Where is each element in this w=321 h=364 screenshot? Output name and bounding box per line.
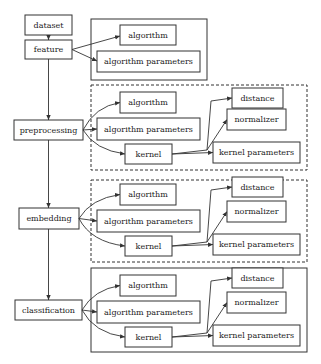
preprocessing-algorithm-parameters: algorithm parameters bbox=[97, 118, 200, 140]
embedding-distance: distance bbox=[232, 177, 283, 197]
embedding-kernel: kernel bbox=[125, 236, 172, 256]
embedding-edge-algorithm-parameters bbox=[79, 219, 97, 222]
edge-feature-algorithm bbox=[72, 36, 120, 50]
feature-algorithm-parameters: algorithm parameters bbox=[97, 51, 200, 72]
classification-edge-algorithm-parameters bbox=[82, 310, 97, 312]
preprocessing-kernel-label: kernel bbox=[136, 150, 162, 159]
embedding-kernel-label: kernel bbox=[136, 242, 162, 251]
preprocessing-kernel-parameters: kernel parameters bbox=[213, 142, 300, 163]
feature-algorithm: algorithm bbox=[120, 25, 176, 45]
classification-normalizer-label: normalizer bbox=[234, 298, 278, 307]
embedding-algorithm-label: algorithm bbox=[128, 190, 168, 199]
classification-algorithm-parameters: algorithm parameters bbox=[97, 301, 200, 323]
classification-kernel-label: kernel bbox=[136, 333, 162, 342]
embedding-distance-label: distance bbox=[240, 183, 274, 192]
node-embedding-label: embedding bbox=[26, 214, 71, 223]
embedding-stage-items: algorithmalgorithm parameterskerneldista… bbox=[79, 177, 300, 256]
node-preprocessing: preprocessing bbox=[14, 120, 83, 140]
embedding-kernel-parameters-label: kernel parameters bbox=[219, 240, 294, 249]
feature-algorithm-label: algorithm bbox=[128, 31, 168, 40]
classification-algorithm-parameters-label: algorithm parameters bbox=[104, 308, 193, 317]
preprocessing-algorithm-parameters-label: algorithm parameters bbox=[104, 125, 193, 134]
node-dataset: dataset bbox=[25, 15, 72, 35]
node-embedding: embedding bbox=[19, 208, 79, 229]
embedding-algorithm: algorithm bbox=[120, 184, 176, 205]
node-classification-label: classification bbox=[22, 306, 75, 315]
classification-kernel-parameters-label: kernel parameters bbox=[219, 331, 294, 340]
node-classification: classification bbox=[15, 300, 82, 320]
classification-algorithm: algorithm bbox=[120, 275, 176, 296]
preprocessing-distance-label: distance bbox=[240, 94, 274, 103]
feature-algorithm-parameters-label: algorithm parameters bbox=[104, 57, 193, 66]
embedding-normalizer: normalizer bbox=[227, 201, 286, 222]
preprocessing-algorithm-label: algorithm bbox=[128, 98, 168, 107]
embedding-algorithm-parameters: algorithm parameters bbox=[97, 210, 200, 232]
classification-kernel: kernel bbox=[125, 327, 172, 347]
classification-algorithm-label: algorithm bbox=[128, 281, 168, 290]
embedding-algorithm-parameters-label: algorithm parameters bbox=[104, 217, 193, 226]
classification-stage-items: algorithmalgorithm parameterskerneldista… bbox=[82, 268, 300, 347]
classification-distance: distance bbox=[232, 268, 283, 288]
preprocessing-normalizer: normalizer bbox=[227, 109, 286, 130]
preprocessing-stage-items: algorithmalgorithm parameterskerneldista… bbox=[83, 88, 300, 164]
preprocessing-kernel: kernel bbox=[125, 144, 172, 164]
classification-normalizer: normalizer bbox=[227, 292, 286, 313]
edge-feature-algorithm-parameters bbox=[72, 50, 97, 62]
preprocessing-kernel-parameters-label: kernel parameters bbox=[219, 148, 294, 157]
pipeline-diagram: dataset feature preprocessing embedding … bbox=[0, 0, 321, 364]
node-feature: feature bbox=[25, 40, 72, 59]
classification-kernel-parameters: kernel parameters bbox=[213, 325, 300, 346]
node-feature-label: feature bbox=[34, 45, 64, 54]
classification-distance-label: distance bbox=[240, 274, 274, 283]
embedding-kernel-parameters: kernel parameters bbox=[213, 234, 300, 255]
preprocessing-edge-algorithm-parameters bbox=[83, 129, 97, 130]
embedding-normalizer-label: normalizer bbox=[234, 207, 278, 216]
preprocessing-algorithm: algorithm bbox=[120, 92, 176, 113]
node-preprocessing-label: preprocessing bbox=[20, 126, 78, 135]
preprocessing-normalizer-label: normalizer bbox=[234, 115, 278, 124]
node-dataset-label: dataset bbox=[34, 21, 65, 30]
preprocessing-distance: distance bbox=[232, 88, 283, 108]
